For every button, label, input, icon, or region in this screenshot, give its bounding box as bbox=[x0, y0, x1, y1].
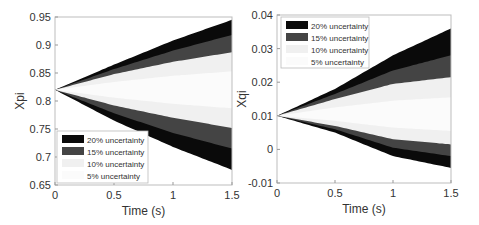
legend-swatch bbox=[62, 159, 84, 167]
left-plot: 00.511.50.650.70.750.80.850.90.95Time (s… bbox=[13, 11, 240, 218]
x-tick-label: 1 bbox=[390, 187, 396, 199]
right-plot: 00.511.5-0.0100.010.020.030.04Time (s)Xq… bbox=[235, 9, 459, 216]
y-axis-label: Xqi bbox=[235, 90, 249, 107]
x-axis-label: Time (s) bbox=[342, 202, 386, 216]
y-tick-label: 0.04 bbox=[252, 9, 273, 21]
legend-label: 20% uncertainty bbox=[311, 22, 368, 31]
y-tick-label: 0.9 bbox=[36, 39, 51, 51]
legend-label: 15% uncertainty bbox=[311, 34, 368, 43]
x-tick-label: 1.5 bbox=[443, 187, 458, 199]
y-tick-label: 0.65 bbox=[30, 179, 51, 191]
y-axis-label: Xpi bbox=[13, 92, 27, 109]
x-tick-label: 0 bbox=[52, 189, 58, 201]
legend-swatch bbox=[286, 33, 308, 41]
chart-figure: 00.511.50.650.70.750.80.850.90.95Time (s… bbox=[0, 0, 479, 225]
legend-label: 5% uncertainty bbox=[311, 58, 364, 67]
y-tick-label: 0.95 bbox=[30, 11, 51, 23]
legend-swatch bbox=[286, 45, 308, 53]
legend-label: 20% uncertainty bbox=[87, 136, 144, 145]
legend: 20% uncertainty15% uncertainty10% uncert… bbox=[57, 131, 148, 183]
legend: 20% uncertainty15% uncertainty10% uncert… bbox=[281, 17, 369, 68]
y-tick-label: 0.85 bbox=[30, 67, 51, 79]
y-tick-label: -0.01 bbox=[248, 177, 273, 189]
x-tick-label: 1.5 bbox=[224, 189, 239, 201]
legend-label: 5% uncertainty bbox=[87, 172, 140, 181]
legend-swatch bbox=[62, 135, 84, 143]
y-tick-label: 0.02 bbox=[252, 76, 273, 88]
x-tick-label: 0.5 bbox=[106, 189, 121, 201]
legend-swatch bbox=[286, 57, 308, 65]
x-tick-label: 1 bbox=[170, 189, 176, 201]
x-tick-label: 0 bbox=[274, 187, 280, 199]
y-tick-label: 0 bbox=[267, 143, 273, 155]
legend-swatch bbox=[62, 171, 84, 179]
legend-swatch bbox=[62, 147, 84, 155]
y-tick-label: 0.01 bbox=[252, 110, 273, 122]
y-tick-label: 0.8 bbox=[36, 95, 51, 107]
legend-swatch bbox=[286, 21, 308, 29]
x-tick-label: 0.5 bbox=[327, 187, 342, 199]
x-axis-label: Time (s) bbox=[122, 204, 166, 218]
legend-label: 10% uncertainty bbox=[87, 160, 144, 169]
legend-label: 10% uncertainty bbox=[311, 46, 368, 55]
legend-label: 15% uncertainty bbox=[87, 148, 144, 157]
y-tick-label: 0.03 bbox=[252, 43, 273, 55]
y-tick-label: 0.7 bbox=[36, 151, 51, 163]
y-tick-label: 0.75 bbox=[30, 123, 51, 135]
